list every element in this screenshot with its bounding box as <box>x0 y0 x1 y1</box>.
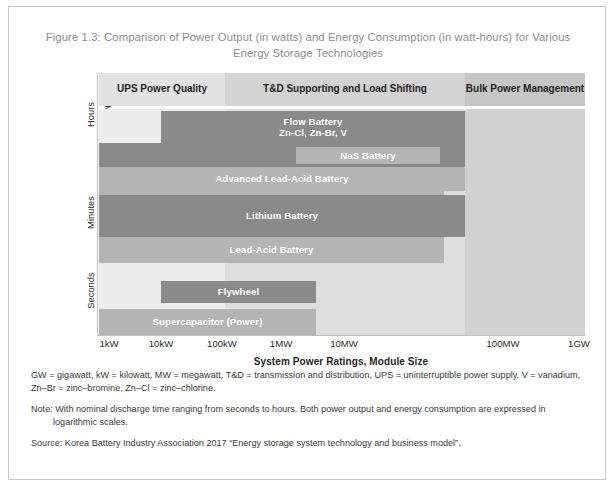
bar-flow-battery: Flow Battery Zn-Cl, Zn-Br, V <box>161 111 465 143</box>
figure-title: Figure 1.3: Comparison of Power Output (… <box>31 29 585 61</box>
figure-notes: GW = gigawatt, kW = kilowatt, MW = megaw… <box>31 369 587 450</box>
note-logarithmic: Note: With nominal discharge time rangin… <box>31 403 587 430</box>
chart-area: Discharge Time at Rated Power Hours Minu… <box>31 73 585 359</box>
note-logarithmic-line1: Note: With nominal discharge time rangin… <box>31 404 546 414</box>
bar-lead-acid-battery: Lead-Acid Battery <box>99 237 444 263</box>
y-tick-hours: Hours <box>85 88 96 142</box>
x-tick-100mw: 100MW <box>486 338 519 349</box>
bar-lithium-battery: Lithium Battery <box>99 195 465 237</box>
application-band-row: UPS Power Quality T&D Supporting and Loa… <box>99 73 585 106</box>
x-axis-line <box>97 335 585 336</box>
figure-card: Figure 1.3: Comparison of Power Output (… <box>8 6 606 480</box>
x-tick-1kw: 1kW <box>99 338 118 349</box>
stripe-bulk <box>465 109 585 335</box>
y-tick-seconds: Seconds <box>85 264 96 318</box>
x-axis-title: System Power Ratings, Module Size <box>97 356 585 367</box>
plot-body: Flow Battery Zn-Cl, Zn-Br, V NaS Battery… <box>99 109 585 335</box>
x-tick-10mw: 10MW <box>330 338 358 349</box>
note-abbreviations: GW = gigawatt, kW = kilowatt, MW = megaw… <box>31 369 587 396</box>
x-tick-100kw: 100kW <box>207 338 237 349</box>
bar-supercapacitor-power: Supercapacitor (Power) <box>99 309 316 335</box>
x-tick-1gw: 1GW <box>568 338 590 349</box>
note-source: Source: Korea Battery Industry Associati… <box>31 437 587 450</box>
x-tick-1mw: 1MW <box>270 338 292 349</box>
bar-nas-battery: NaS Battery <box>296 147 440 164</box>
bar-advanced-lead-acid-battery: Advanced Lead-Acid Battery <box>99 167 465 191</box>
bar-flywheel: Flywheel <box>161 281 316 303</box>
band-td-supporting-load-shifting: T&D Supporting and Load Shifting <box>225 73 465 106</box>
x-tick-10kw: 10kW <box>149 338 174 349</box>
y-tick-minutes: Minutes <box>85 186 96 240</box>
y-axis-line <box>97 73 98 335</box>
band-bulk-power-management: Bulk Power Management <box>465 73 585 106</box>
note-logarithmic-line2: logarithmic scales. <box>31 416 587 429</box>
band-ups-power-quality: UPS Power Quality <box>99 73 225 106</box>
